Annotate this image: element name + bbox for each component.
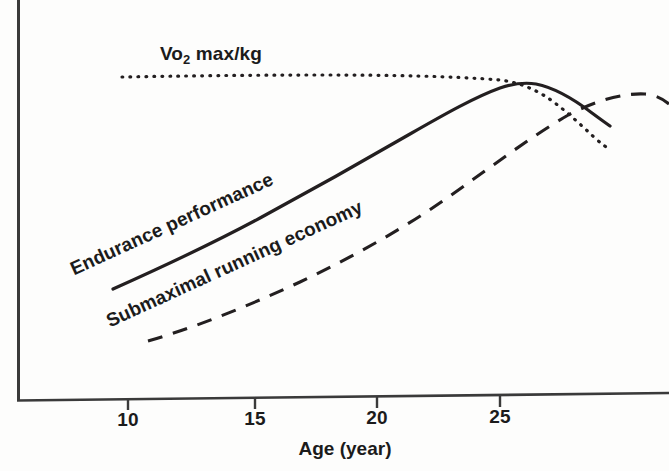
- x-tick-label-15: 15: [225, 408, 285, 430]
- x-tick-label-25: 25: [470, 406, 530, 428]
- vo2-label-subscript: 2: [183, 52, 190, 67]
- x-tick-label-20: 20: [347, 407, 407, 429]
- chart-figure: 10 15 20 25 Age (year) Vo2 max/kg Endura…: [0, 0, 669, 471]
- series-line-submaximal-running-economy: [148, 94, 669, 341]
- series-line-vo2-max-per-kg: [122, 75, 609, 149]
- x-axis-title: Age (year): [280, 438, 410, 460]
- vo2-label-prefix: Vo: [160, 43, 183, 64]
- chart-plot-area: [0, 0, 669, 471]
- series-line-endurance-performance: [113, 83, 610, 289]
- x-axis-line: [17, 393, 669, 401]
- vo2-label-suffix: max/kg: [190, 43, 261, 64]
- series-label-vo2-max-per-kg: Vo2 max/kg: [160, 43, 262, 65]
- x-tick-label-10: 10: [98, 409, 158, 431]
